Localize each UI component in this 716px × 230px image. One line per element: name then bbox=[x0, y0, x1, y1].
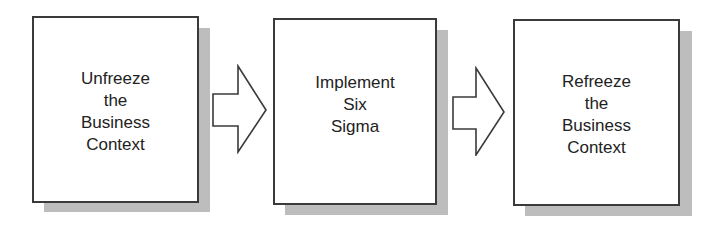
step-3-label: Refreeze the Business Context bbox=[562, 71, 631, 159]
arrow-right-icon bbox=[212, 64, 270, 154]
step-2-box: Implement Six Sigma bbox=[273, 18, 437, 205]
step-3-box: Refreeze the Business Context bbox=[513, 19, 680, 206]
step-1-label: Unfreeze the Business Context bbox=[81, 68, 150, 156]
step-2-label: Implement Six Sigma bbox=[315, 72, 394, 138]
arrow-right-icon bbox=[452, 66, 510, 156]
step-1-box: Unfreeze the Business Context bbox=[32, 16, 199, 203]
